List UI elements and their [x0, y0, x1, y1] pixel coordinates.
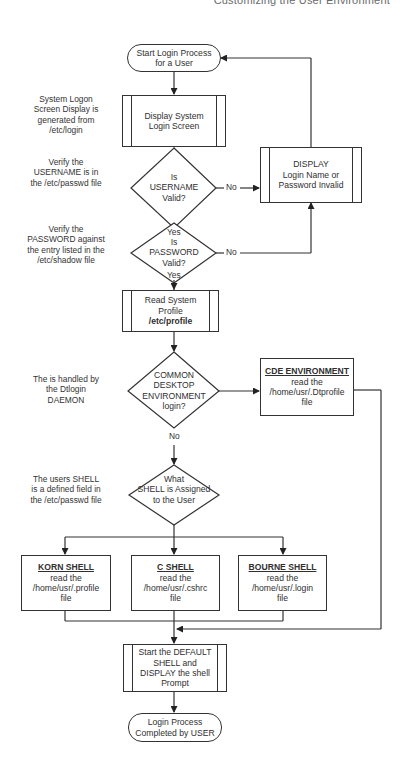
note-line: the /etc/passwd file — [10, 178, 122, 188]
default-shell-line2: SHELL and — [153, 658, 197, 668]
note-line: Verify the — [10, 157, 122, 167]
note-line: the entry listed in the — [10, 245, 122, 255]
display-invalid-box: DISPLAY Login Name or Password Invalid — [260, 147, 362, 203]
cshell-line3: file — [170, 593, 181, 603]
note-line: DAEMON — [10, 395, 122, 405]
invalid-line3: Password Invalid — [279, 180, 344, 190]
password-line3: Valid? — [149, 258, 199, 268]
invalid-line2: Login Name or — [283, 170, 339, 180]
display-login-line2: Login Screen — [149, 121, 200, 131]
bourne-line3: file — [277, 593, 288, 603]
username-line3: Valid? — [150, 193, 199, 203]
note-line: System Logon — [10, 94, 122, 104]
note-line: The users SHELL — [10, 474, 122, 484]
read-profile-path: /etc/profile — [149, 316, 192, 326]
password-yes-label: Yes — [167, 270, 181, 280]
read-profile-line1: Read System — [145, 295, 197, 305]
note-password: Verify the PASSWORD against the entry li… — [10, 224, 122, 266]
default-shell-line3: DISPLAY the shell — [140, 668, 210, 678]
bourne-shell-box: BOURNE SHELL read the /home/usr/.login f… — [238, 555, 327, 611]
start-login-terminator: Start Login Process for a User — [127, 44, 221, 72]
korn-line1: read the — [50, 573, 82, 583]
login-completed-terminator: Login Process Completed by USER — [128, 713, 222, 742]
default-shell-line4: Prompt — [161, 678, 189, 688]
shell-line2: SHELL is Assigned — [138, 485, 211, 495]
korn-line3: file — [61, 593, 72, 603]
cde-box-line1: read the — [291, 377, 323, 387]
display-login-line1: Display System — [144, 111, 203, 121]
shell-decision: What SHELL is Assigned to the User — [138, 474, 211, 505]
note-line: Screen Display is — [10, 104, 122, 114]
cshell-line2: /home/usr/.cshrc — [144, 583, 208, 593]
note-line: USERNAME is in — [10, 167, 122, 177]
start-line2: for a User — [155, 58, 193, 68]
note-line: The is handled by — [10, 374, 122, 384]
cshell-title: C SHELL — [157, 562, 194, 572]
note-line: /etc/login — [10, 125, 122, 135]
c-shell-box: C SHELL read the /home/usr/.cshrc file — [131, 555, 220, 611]
end-line2: Completed by USER — [135, 728, 214, 738]
username-yes-label: Yes — [167, 227, 181, 237]
note-line: the Dtlogin — [10, 384, 122, 394]
bourne-title: BOURNE SHELL — [249, 562, 317, 572]
shell-line1: What — [138, 474, 211, 484]
read-system-profile-box: Read System Profile /etc/profile — [122, 290, 219, 332]
cde-line3: ENVIRONMENT — [142, 391, 206, 401]
invalid-line1: DISPLAY — [293, 159, 329, 169]
note-username: Verify the USERNAME is in the /etc/passw… — [10, 157, 122, 188]
note-cde: The is handled by the Dtlogin DAEMON — [10, 374, 122, 405]
bourne-line2: /home/usr/.login — [252, 583, 313, 593]
password-line2: PASSWORD — [149, 248, 199, 258]
note-line: generated from — [10, 115, 122, 125]
username-line1: Is — [150, 172, 199, 182]
note-line: /etc/shadow file — [10, 255, 122, 265]
cde-decision: COMMON DESKTOP ENVIRONMENT login? — [142, 370, 206, 412]
korn-line2: /home/usr/.profile — [33, 583, 99, 593]
start-line1: Start Login Process — [137, 48, 212, 58]
start-default-shell-box: Start the DEFAULT SHELL and DISPLAY the … — [123, 644, 227, 692]
read-profile-line2: Profile — [158, 306, 182, 316]
password-no-label: No — [226, 247, 237, 257]
korn-shell-box: KORN SHELL read the /home/usr/.profile f… — [21, 555, 111, 611]
username-line2: USERNAME — [150, 183, 199, 193]
cde-line4: login? — [142, 401, 206, 411]
cshell-line1: read the — [160, 573, 192, 583]
cde-environment-box: CDE ENVIRONMENT read the /home/usr/.Dtpr… — [260, 358, 354, 416]
username-decision: Is USERNAME Valid? — [150, 172, 199, 203]
display-login-screen-box: Display System Login Screen — [122, 95, 226, 147]
cde-line2: DESKTOP — [142, 381, 206, 391]
username-no-label: No — [226, 182, 237, 192]
note-shell: The users SHELL is a defined field in th… — [10, 474, 122, 505]
korn-title: KORN SHELL — [38, 562, 94, 572]
default-shell-line1: Start the DEFAULT — [139, 647, 212, 657]
password-decision: Is PASSWORD Valid? — [149, 237, 199, 268]
password-line1: Is — [149, 237, 199, 247]
cde-box-line3: file — [302, 397, 313, 407]
shell-line3: to the User — [138, 495, 211, 505]
note-line: Verify the — [10, 224, 122, 234]
cde-no-label: No — [169, 431, 180, 441]
note-line: the /etc/passwd file — [10, 495, 122, 505]
cde-line1: COMMON — [142, 370, 206, 380]
end-line1: Login Process — [148, 717, 202, 727]
bourne-line1: read the — [267, 573, 299, 583]
cde-box-title: CDE ENVIRONMENT — [265, 366, 349, 376]
note-login-screen: System Logon Screen Display is generated… — [10, 94, 122, 136]
note-line: is a defined field in — [10, 484, 122, 494]
cde-box-line2: /home/usr/.Dtprofile — [270, 387, 345, 397]
note-line: PASSWORD against — [10, 234, 122, 244]
